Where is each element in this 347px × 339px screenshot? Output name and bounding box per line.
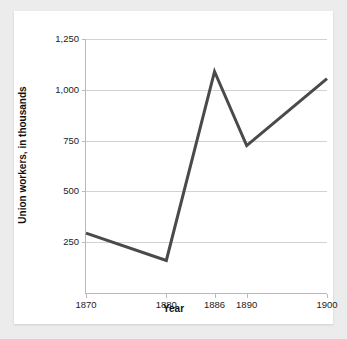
- chart-card: 2505007501,0001,250 18701880188618901900: [14, 11, 333, 324]
- x-axis-tick: [215, 294, 216, 298]
- y-axis-tick: [82, 191, 86, 192]
- x-axis-title: Year: [0, 303, 347, 314]
- y-axis-tick-label: 1,000: [55, 85, 79, 95]
- x-axis-tick: [86, 294, 87, 298]
- y-axis-tick: [82, 242, 86, 243]
- y-axis-tick: [82, 39, 86, 40]
- x-axis-line: [85, 293, 327, 294]
- y-axis-title: Union workers, in thousands: [17, 86, 28, 223]
- x-axis-tick: [327, 294, 328, 298]
- x-axis-tick: [166, 294, 167, 298]
- y-axis-tick-label: 250: [63, 237, 79, 247]
- chart-figure: 2505007501,0001,250 18701880188618901900…: [0, 0, 347, 339]
- y-axis-tick: [82, 141, 86, 142]
- y-axis-tick-label: 1,250: [55, 34, 79, 44]
- plot-area: [86, 39, 327, 293]
- series-polyline: [86, 72, 327, 261]
- y-axis-tick-label: 500: [63, 186, 79, 196]
- line-series: [86, 39, 327, 293]
- y-axis-tick: [82, 90, 86, 91]
- x-axis-tick: [247, 294, 248, 298]
- y-axis-tick-label: 750: [63, 136, 79, 146]
